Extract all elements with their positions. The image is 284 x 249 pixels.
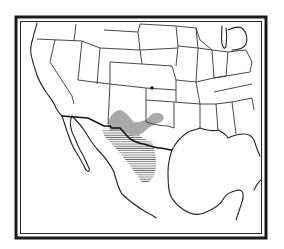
map-canvas	[0, 0, 284, 249]
us-gulf-coast	[172, 128, 260, 156]
mexico-gulf-coast	[168, 150, 243, 220]
florida-coast	[254, 180, 261, 190]
range-map	[0, 0, 284, 249]
lake-michigan	[222, 26, 227, 48]
pacific-coast	[31, 23, 62, 116]
michigan-peninsula	[228, 27, 247, 50]
baja-california	[62, 116, 89, 171]
